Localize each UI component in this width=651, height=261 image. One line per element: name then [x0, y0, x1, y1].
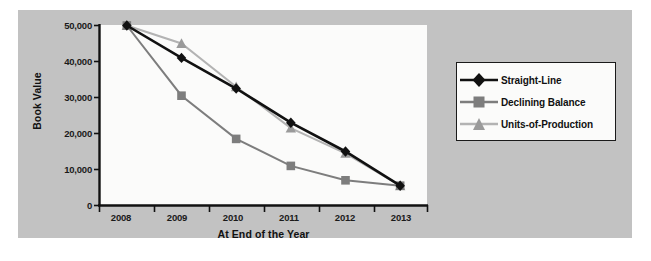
data-point	[341, 176, 350, 185]
legend-label-straight-line: Straight-Line	[501, 75, 561, 86]
legend: Straight-Line Declining Balance Units-of…	[456, 62, 616, 141]
legend-label-units-of-production: Units-of-Production	[501, 119, 593, 130]
chart-screenshot: 50,000 40,000 30,000 20,000 10,000 0 200…	[0, 0, 651, 261]
data-point	[287, 162, 296, 171]
diamond-marker-icon	[457, 70, 501, 90]
series-layer	[122, 20, 406, 191]
series-straight-line	[122, 20, 405, 191]
data-point	[232, 135, 241, 144]
legend-item-units-of-production[interactable]: Units-of-Production	[457, 113, 617, 135]
legend-item-declining-balance[interactable]: Declining Balance	[457, 91, 617, 113]
triangle-marker-icon	[457, 114, 501, 134]
legend-item-straight-line[interactable]: Straight-Line	[457, 69, 617, 91]
data-point	[177, 91, 186, 100]
square-marker-icon	[457, 92, 501, 112]
legend-label-declining-balance: Declining Balance	[501, 97, 585, 108]
data-point	[177, 53, 187, 63]
